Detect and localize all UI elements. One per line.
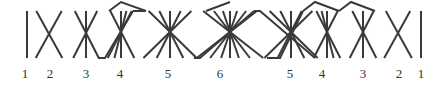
strand-line <box>384 11 410 58</box>
strand-line <box>203 11 263 58</box>
strand-line <box>350 11 374 58</box>
group-label: 1 <box>22 66 29 81</box>
connector-line <box>206 2 230 11</box>
group-label: 1 <box>418 66 425 81</box>
group-label: 4 <box>319 66 326 81</box>
group-label: 5 <box>287 66 294 81</box>
strand-line <box>149 11 197 58</box>
connector-line <box>339 2 375 11</box>
diagram-labels: 12345654321 <box>22 66 425 81</box>
strand-line <box>352 11 376 58</box>
group-label: 2 <box>396 66 403 81</box>
diagram-strokes <box>27 2 421 58</box>
crossing-group <box>73 11 99 58</box>
strand-line <box>157 11 181 58</box>
crossing-group <box>350 11 377 58</box>
group-label: 4 <box>117 66 124 81</box>
group-label: 2 <box>47 66 54 81</box>
group-label: 5 <box>165 66 172 81</box>
strand-line <box>386 11 412 58</box>
crossing-group <box>108 11 135 58</box>
group-label: 3 <box>360 66 367 81</box>
strand-line <box>143 11 191 58</box>
line-crossing-diagram: 12345654321 <box>0 0 447 85</box>
crossing-group <box>314 11 341 58</box>
strand-line <box>316 11 340 58</box>
crossing-group <box>36 11 63 58</box>
connector-line <box>109 2 146 11</box>
group-label: 6 <box>217 66 224 81</box>
crossing-group <box>143 11 196 58</box>
group-label: 3 <box>83 66 90 81</box>
strand-line <box>110 11 134 58</box>
crossing-group <box>384 11 412 58</box>
strand-line <box>270 11 318 58</box>
strand-line <box>314 11 338 58</box>
strand-line <box>278 11 302 58</box>
connector-line <box>303 2 339 11</box>
